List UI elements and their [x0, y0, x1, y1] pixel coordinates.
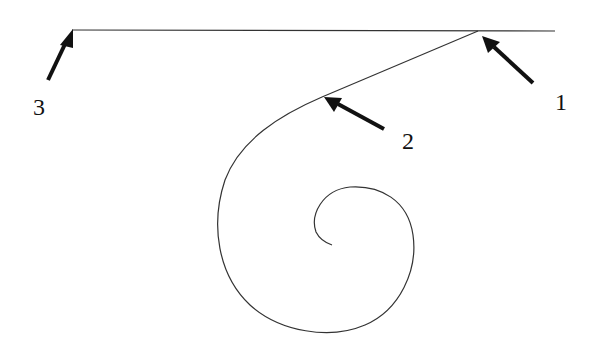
arrow-2: [324, 97, 384, 129]
label-3: 3: [33, 95, 45, 119]
tangent-line: [322, 31, 478, 97]
arrow-3: [48, 29, 73, 80]
horizontal-line: [72, 30, 555, 31]
spiral-tangent-diagram: [0, 0, 594, 344]
label-2: 2: [402, 129, 414, 153]
spiral-curve: [218, 97, 414, 332]
label-1: 1: [555, 90, 567, 114]
arrow-1: [482, 36, 533, 83]
